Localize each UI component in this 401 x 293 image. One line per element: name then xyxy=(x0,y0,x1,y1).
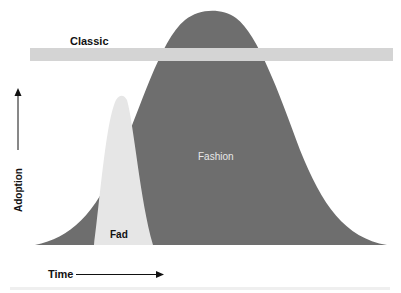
y-axis-arrowhead-icon xyxy=(15,88,22,96)
y-axis-label: Adoption xyxy=(13,168,24,212)
fad-fashion-classic-diagram: Classic Fashion Fad Adoption Time xyxy=(0,0,401,293)
classic-band xyxy=(30,48,393,61)
x-axis-arrowhead-icon xyxy=(156,271,164,278)
classic-label: Classic xyxy=(70,35,109,47)
fashion-label: Fashion xyxy=(198,151,234,162)
x-axis-label: Time xyxy=(48,268,73,280)
cropped-caption-remnant xyxy=(10,287,390,290)
fad-label: Fad xyxy=(110,229,128,240)
